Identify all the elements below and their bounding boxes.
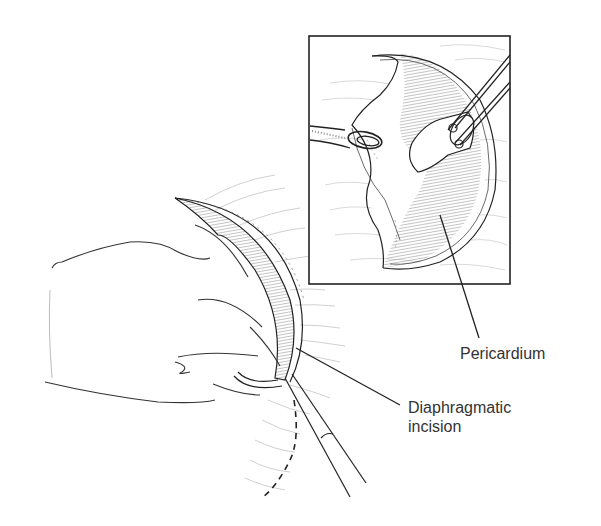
diaphragmatic-incision-label: Diaphragmatic incision: [408, 398, 511, 436]
illustration: [0, 0, 601, 526]
diaphragmatic-incision-label-line1: Diaphragmatic: [408, 398, 511, 417]
pericardium-label: Pericardium: [460, 344, 545, 363]
diaphragmatic-incision-label-line2: incision: [408, 417, 511, 436]
retractor-ring: [234, 372, 282, 388]
incision-leader-line: [296, 348, 400, 405]
forceps-main: [285, 374, 366, 497]
